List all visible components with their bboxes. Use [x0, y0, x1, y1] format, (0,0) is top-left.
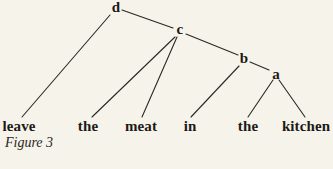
edge-c-the1: [92, 37, 175, 117]
tree-node-d: d: [112, 0, 120, 15]
leaf-meat: meat: [125, 119, 157, 134]
edge-b-a: [250, 62, 269, 70]
leaf-the-1: the: [78, 119, 98, 134]
edge-c-meat: [142, 37, 177, 117]
leaf-leave: leave: [3, 119, 36, 134]
edge-d-c: [122, 10, 173, 28]
edge-d-leave: [22, 15, 110, 117]
edge-a-kitchen: [279, 80, 305, 117]
tree-node-b: b: [240, 51, 248, 66]
figure-caption: Figure 3: [5, 136, 53, 150]
leaf-kitchen: kitchen: [282, 119, 330, 134]
edge-b-in: [191, 66, 239, 117]
tree-node-c: c: [177, 22, 184, 37]
edge-a-the2: [248, 80, 273, 117]
leaf-the-2: the: [238, 119, 258, 134]
tree-node-a: a: [272, 67, 280, 82]
edge-c-b: [186, 34, 238, 55]
leaf-in: in: [184, 119, 197, 134]
